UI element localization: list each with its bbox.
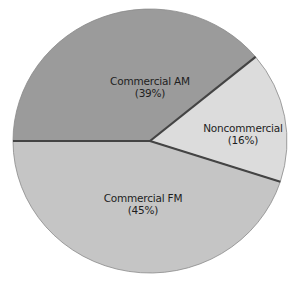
- slice-name: Commercial AM: [110, 75, 190, 87]
- slice-percent: (39%): [110, 87, 190, 99]
- slice-label-commercial-fm: Commercial FM (45%): [104, 192, 183, 216]
- slice-label-commercial-am: Commercial AM (39%): [110, 75, 190, 99]
- slice-label-noncommercial: Noncommercial (16%): [203, 122, 283, 146]
- slice-name: Commercial FM: [104, 192, 183, 204]
- slice-percent: (16%): [203, 134, 283, 146]
- slice-percent: (45%): [104, 204, 183, 216]
- slice-name: Noncommercial: [203, 122, 283, 134]
